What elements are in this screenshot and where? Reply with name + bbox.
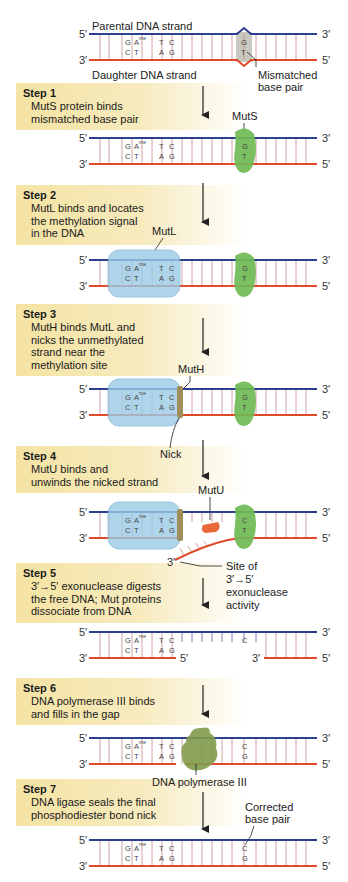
svg-text:3′: 3′	[322, 732, 330, 744]
svg-text:me: me	[139, 261, 146, 267]
svg-text:5′: 5′	[322, 409, 330, 421]
svg-text:C: C	[242, 636, 248, 645]
mutl-label: MutL	[152, 225, 176, 237]
svg-text:T: T	[242, 403, 247, 412]
svg-text:3′: 3′	[322, 834, 330, 846]
mutu-protein	[202, 522, 220, 533]
svg-text:C: C	[125, 854, 131, 863]
svg-text:G: G	[169, 48, 175, 57]
svg-text:5′: 5′	[79, 732, 87, 744]
svg-text:T: T	[134, 274, 139, 283]
svg-text:3′: 3′	[79, 158, 87, 170]
svg-text:G: G	[125, 38, 131, 47]
svg-text:3′: 3′	[79, 409, 87, 421]
svg-text:5′: 5′	[79, 383, 87, 395]
svg-text:T: T	[159, 264, 164, 273]
svg-text:5′: 5′	[79, 132, 87, 144]
svg-text:G: G	[125, 844, 131, 853]
svg-text:G: G	[169, 854, 175, 863]
svg-text:A: A	[159, 752, 164, 761]
svg-text:3′: 3′	[79, 54, 87, 66]
svg-text:G: G	[242, 264, 248, 273]
svg-text:3′: 3′	[79, 860, 87, 872]
svg-text:me: me	[139, 633, 146, 639]
svg-text:C: C	[125, 274, 131, 283]
svg-text:C: C	[169, 264, 175, 273]
exo-site-label-2: 3′→5′	[226, 573, 253, 585]
svg-text:A: A	[159, 152, 164, 161]
svg-text:5′: 5′	[322, 158, 330, 170]
svg-text:C: C	[169, 516, 175, 525]
step-4-dna: MutU 5′3′ 3′5′ GAme TC CT AG CT 3′	[79, 484, 330, 611]
svg-text:3′: 3′	[252, 652, 260, 664]
svg-text:3′: 3′	[322, 254, 330, 266]
svg-text:G: G	[242, 393, 248, 402]
corrected-label-2: base pair	[245, 813, 291, 825]
svg-text:5′: 5′	[322, 652, 330, 664]
svg-text:G: G	[125, 516, 131, 525]
svg-text:me: me	[139, 139, 146, 145]
svg-text:A: A	[159, 854, 164, 863]
svg-text:C: C	[169, 844, 175, 853]
exo-site-label-1: Site of	[226, 560, 258, 572]
polymerase-label: DNA polymerase III	[152, 776, 247, 788]
svg-text:C: C	[125, 48, 131, 57]
svg-text:G: G	[169, 526, 175, 535]
step-3-dna: MutH 5′3′ 3′5′ GAme TC CT AG GT Nick	[79, 363, 330, 460]
svg-text:G: G	[125, 636, 131, 645]
step-7-dna: Corrected base pair 5′3′ 3′5′ GAme TC CT…	[79, 801, 330, 872]
svg-text:G: G	[242, 142, 248, 151]
step-5-dna: 5′3′ 3′5′ GAme TC CT AG C 5′ 3′	[79, 626, 330, 664]
svg-text:T: T	[241, 48, 246, 57]
svg-text:T: T	[134, 854, 139, 863]
svg-text:A: A	[159, 274, 164, 283]
svg-text:T: T	[159, 742, 164, 751]
svg-text:T: T	[159, 516, 164, 525]
svg-text:me: me	[139, 739, 146, 745]
svg-text:3′: 3′	[79, 532, 87, 544]
svg-text:C: C	[242, 516, 248, 525]
svg-text:3′: 3′	[322, 132, 330, 144]
svg-text:me: me	[139, 841, 146, 847]
svg-text:A: A	[159, 48, 164, 57]
svg-text:3′: 3′	[322, 28, 330, 40]
svg-text:C: C	[125, 152, 131, 161]
svg-text:C: C	[125, 403, 131, 412]
svg-text:G: G	[242, 752, 248, 761]
svg-text:3′: 3′	[322, 506, 330, 518]
mutu-label: MutU	[198, 484, 224, 496]
step-2-dna: MutL 5′3′ 3′5′ GAme TC CT AG GT	[79, 225, 330, 297]
svg-text:5′: 5′	[79, 28, 87, 40]
svg-text:3′: 3′	[79, 758, 87, 770]
svg-text:T: T	[242, 152, 247, 161]
svg-text:3′: 3′	[322, 626, 330, 638]
svg-text:A: A	[159, 403, 164, 412]
svg-text:T: T	[134, 646, 139, 655]
mismatch-repair-diagram: Parental DNA strand 5′ 3′ 3′ 5′ GAme TC …	[0, 0, 348, 882]
svg-text:G: G	[125, 393, 131, 402]
svg-text:G: G	[169, 646, 175, 655]
svg-text:C: C	[169, 393, 175, 402]
svg-text:5′: 5′	[79, 626, 87, 638]
muth-protein	[177, 386, 183, 418]
svg-text:me: me	[139, 513, 146, 519]
svg-text:G: G	[125, 742, 131, 751]
svg-text:T: T	[134, 526, 139, 535]
svg-text:T: T	[159, 142, 164, 151]
svg-text:C: C	[169, 142, 175, 151]
exo-site-label-3: exonuclease	[226, 586, 288, 598]
step-1-dna: MutS 5′3′ 3′5′ GAme TC CT AG GT	[79, 110, 330, 173]
svg-text:T: T	[242, 526, 247, 535]
exo-site-label-4: activity	[226, 599, 260, 611]
svg-text:C: C	[125, 646, 131, 655]
svg-text:T: T	[159, 393, 164, 402]
svg-text:5′: 5′	[322, 280, 330, 292]
svg-text:T: T	[134, 403, 139, 412]
svg-text:G: G	[125, 264, 131, 273]
svg-text:C: C	[242, 742, 248, 751]
svg-text:C: C	[169, 38, 175, 47]
muts-label: MutS	[232, 110, 258, 122]
svg-text:G: G	[169, 274, 175, 283]
svg-text:T: T	[242, 274, 247, 283]
dna-polymerase-iii	[182, 728, 218, 771]
